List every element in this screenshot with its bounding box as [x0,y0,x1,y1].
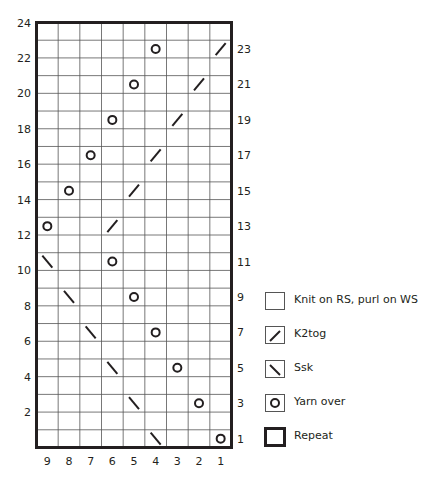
repeat-icon [264,427,286,447]
k2tog-icon [129,185,139,197]
yarn-over-icon [152,45,160,53]
k2tog-icon [172,114,182,126]
yarn-over-icon [130,293,138,301]
ssk-icon [107,362,117,374]
column-label: 4 [152,455,159,468]
legend-label: Repeat [294,429,333,442]
ssk-icon [64,291,74,303]
row-label: 13 [237,220,251,233]
row-label: 24 [17,17,31,30]
k2tog-icon [194,78,204,90]
yarn-over-icon [43,222,51,230]
yarn-over-icon [65,187,73,195]
row-label: 21 [237,78,251,91]
row-label: 11 [237,256,251,269]
row-label: 12 [17,229,31,242]
column-label: 9 [44,455,51,468]
legend-item-repeat: Repeat [265,428,421,448]
ssk-icon [86,326,96,338]
row-label: 4 [24,371,31,384]
row-label: 10 [17,264,31,277]
yarn-over-icon [108,258,116,266]
yarn-over-icon [195,399,203,407]
row-label: 7 [237,326,244,339]
row-label: 22 [17,52,31,65]
row-label: 3 [237,397,244,410]
legend-label: Ssk [294,361,313,374]
row-label: 23 [237,43,251,56]
row-label: 1 [237,433,244,446]
column-labels: 987654321 [44,455,224,468]
column-label: 3 [174,455,181,468]
yarn-over-icon [265,394,285,412]
row-label: 17 [237,149,251,162]
yarn-over-icon [108,116,116,124]
row-label: 14 [17,194,31,207]
yarn-over-icon [217,435,225,443]
knit-icon [265,292,285,310]
chart-grid [37,23,232,448]
row-label: 6 [24,335,31,348]
row-label: 19 [237,114,251,127]
column-label: 5 [131,455,138,468]
legend-item-k2tog: K2tog [265,326,421,346]
legend-label: Yarn over [294,395,345,408]
legend-label: K2tog [294,327,326,340]
column-label: 2 [196,455,203,468]
yarn-over-icon [173,364,181,372]
column-label: 8 [66,455,73,468]
k2tog-icon [216,43,226,55]
ssk-icon [151,433,161,445]
row-label: 20 [17,87,31,100]
k2tog-icon [151,149,161,161]
row-label: 15 [237,185,251,198]
ssk-icon [42,256,52,268]
legend-item-yarn-over: Yarn over [265,394,421,414]
yarn-over-icon [152,328,160,336]
row-label: 2 [24,406,31,419]
k2tog-icon [265,326,285,344]
column-label: 1 [217,455,224,468]
row-label: 18 [17,123,31,136]
ssk-icon [129,397,139,409]
column-label: 6 [109,455,116,468]
row-label: 5 [237,362,244,375]
legend-label: Knit on RS, purl on WS [294,293,418,306]
row-label: 16 [17,158,31,171]
left-row-labels: 24222018161412108642 [17,17,31,420]
yarn-over-icon [87,151,95,159]
yarn-over-icon [130,80,138,88]
legend-item-knit: Knit on RS, purl on WS [265,292,421,312]
chart-symbols [42,43,225,445]
column-label: 7 [87,455,94,468]
right-row-labels: 2321191715131197531 [237,43,251,446]
legend-item-ssk: Ssk [265,360,421,380]
row-label: 9 [237,291,244,304]
k2tog-icon [107,220,117,232]
ssk-icon [265,360,285,378]
row-label: 8 [24,300,31,313]
